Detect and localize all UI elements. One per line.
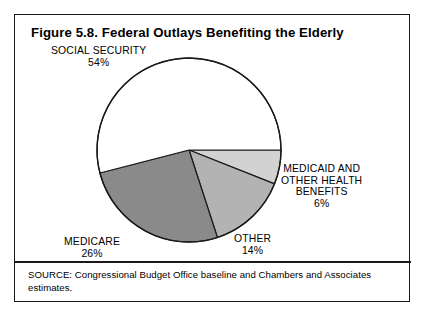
pie-label-social-security-name: SOCIAL SECURITY [51,45,146,56]
pie-label-medicaid: MEDICAID AND OTHER HEALTH BENEFITS 6% [281,163,362,209]
pie-label-social-security: SOCIAL SECURITY 54% [51,45,146,68]
pie-label-medicaid-line2: OTHER HEALTH [281,175,362,187]
pie-label-medicare: MEDICARE 26% [64,236,120,259]
pie-label-other-name: OTHER [234,233,271,244]
pie-label-other-percent: 14% [234,245,271,257]
pie-label-medicaid-percent: 6% [281,198,362,210]
pie-chart-svg [89,50,289,250]
pie-label-medicaid-line1: MEDICAID AND [283,163,360,174]
pie-chart: SOCIAL SECURITY 54% MEDICAID AND OTHER H… [15,15,411,261]
pie-label-social-security-percent: 54% [51,57,146,69]
pie-label-medicaid-line3: BENEFITS [281,186,362,198]
pie-label-medicare-name: MEDICARE [64,236,120,247]
pie-label-medicare-percent: 26% [64,248,120,260]
source-note: SOURCE: Congressional Budget Office base… [28,269,398,294]
figure-frame: Figure 5.8. Federal Outlays Benefiting t… [14,14,410,302]
source-divider [15,261,411,263]
pie-label-other: OTHER 14% [234,233,271,256]
